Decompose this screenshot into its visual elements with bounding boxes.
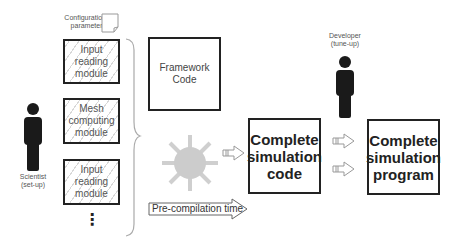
config-label-line2: parameters [50,22,106,30]
config-label-line1: Configuration [50,14,106,22]
scientist-label-line1: Scientist [10,173,56,181]
developer-label: Developer (tune-up) [322,32,368,48]
module-input-reading-1: Input reading module [63,39,120,84]
module-2-line1: Mesh [68,103,114,115]
complete-code-line2: simulation [247,148,322,165]
module-mesh-computing: Mesh computing module [63,98,120,144]
module-1-line1: Input reading [65,44,118,68]
compiler-gear-icon [160,133,220,193]
framework-code-box: Framework Code [148,37,221,111]
complete-simulation-code-box: Complete simulation code [248,118,321,194]
arrow-to-complete-code-icon [222,145,246,161]
module-2-line3: module [68,127,114,139]
config-parameters-label: Configuration parameters [50,14,106,30]
complete-program-line3: program [366,166,441,183]
brace-icon [124,38,144,238]
developer-person-icon [333,56,357,118]
scientist-person-icon [21,103,45,171]
module-3-line2: module [65,188,118,200]
more-modules-ellipsis: ⋮ [84,210,98,229]
complete-program-line1: Complete [366,132,441,149]
complete-code-line3: code [247,165,322,182]
complete-simulation-program-box: Complete simulation program [367,119,440,195]
complete-code-line1: Complete [247,131,322,148]
arrow-to-program-icon-1 [332,133,356,149]
module-2-line2: computing [68,115,114,127]
precompilation-label: Pre-compilation time [152,203,243,215]
module-3-line1: Input reading [65,164,118,188]
developer-label-line1: Developer [322,32,368,40]
scientist-label-line2: (set-up) [10,181,56,189]
framework-label-line2: Code [159,74,209,86]
module-input-reading-2: Input reading module [63,159,120,205]
arrow-to-program-icon-2 [332,161,356,177]
developer-label-line2: (tune-up) [322,40,368,48]
module-1-line2: module [65,68,118,80]
complete-program-line2: simulation [366,149,441,166]
framework-label-line1: Framework [159,62,209,74]
scientist-label: Scientist (set-up) [10,173,56,189]
document-icon [101,13,119,33]
